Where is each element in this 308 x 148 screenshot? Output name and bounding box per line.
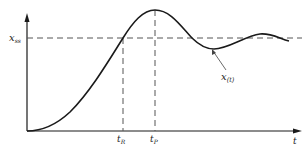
curve-label-leader [213,51,226,70]
step-response-diagram: xss tR tP t x(t) [0,0,308,148]
y-axis-label: xss [9,32,21,44]
response-curve [27,10,289,131]
x-axis-arrow-icon [293,129,302,134]
peak-time-label: tP [150,134,159,145]
y-axis-arrow-icon [25,13,30,22]
x-axis-label: t [293,136,297,146]
rise-time-label: tR [117,134,126,145]
curve-label: x(t) [221,71,235,84]
